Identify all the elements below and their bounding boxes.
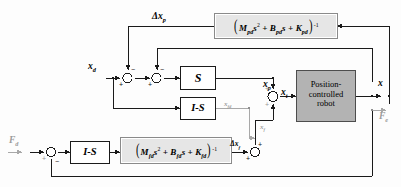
- xd-sub: d: [93, 66, 96, 73]
- plus-f2: +: [188, 147, 193, 157]
- close-paren: ): [309, 17, 313, 34]
- selection-matrix-i-minus-s-block-bottom[interactable]: I-S: [70, 141, 110, 164]
- sign-force-out-junction-left: +: [246, 155, 250, 162]
- selection-matrix-s-block[interactable]: S: [180, 66, 216, 90]
- signal-label-xf: xf: [260, 124, 265, 133]
- sign-position-junction-top: +: [265, 85, 269, 92]
- inverse-exponent: -1: [314, 22, 319, 28]
- signal-label-xfd: xfd: [224, 101, 231, 110]
- sign-junction2-top: −: [160, 66, 164, 73]
- m-symbol-pd: M: [239, 23, 247, 33]
- sign-position-junction-bottom: +: [265, 101, 269, 108]
- signal-label-fd: Fd: [9, 136, 18, 147]
- x-out-base: x: [378, 78, 383, 88]
- sign-junction2-left: +: [148, 81, 152, 88]
- plus-f1: +: [163, 147, 168, 157]
- signal-label-xd: xd: [88, 62, 96, 73]
- force-admittance-expression: (Mfds2 + Bfds + Kfd)-1: [135, 141, 217, 160]
- s-var-f2: s: [182, 147, 186, 157]
- selection-matrix-i-minus-s-block-top[interactable]: I-S: [180, 97, 216, 120]
- plus-2: +: [288, 23, 293, 33]
- fe-sub: e: [385, 116, 388, 123]
- delta-xf-sub: f: [238, 145, 240, 150]
- s-var-2: s: [282, 23, 286, 33]
- xf-sub: f: [264, 127, 266, 132]
- sign-junction1-top: −: [131, 66, 135, 73]
- xt-sub: t: [286, 92, 288, 99]
- sign-force-out-junction-top: +: [258, 141, 262, 148]
- signal-label-delta-xp: Δxp: [152, 12, 166, 23]
- block-diagram-canvas: (Mpds2 + Bpds + Kpd)-1 S I-S Position- c…: [0, 0, 401, 187]
- position-admittance-expression: (Mpds2 + Bpds + Kpd)-1: [233, 17, 318, 36]
- sign-force-in-junction-left: +: [42, 155, 46, 162]
- selection-is-top-label: I-S: [191, 103, 204, 114]
- force-admittance-block[interactable]: (Mfds2 + Bfds + Kfd)-1: [120, 137, 232, 164]
- k-subscript-pd: pd: [302, 28, 308, 34]
- s-power-f: 2: [157, 146, 160, 152]
- signal-label-xt: xt: [281, 88, 288, 99]
- m-symbol-fd: M: [141, 147, 149, 157]
- selection-is-bottom-label: I-S: [83, 147, 96, 158]
- plus-1: +: [262, 23, 267, 33]
- signal-label-delta-xf: Δxf: [230, 140, 240, 150]
- robot-line-3: robot: [317, 98, 335, 108]
- sign-force-in-junction-bottom: −: [55, 158, 59, 165]
- delta-xp-sub: p: [163, 16, 166, 23]
- signal-label-fe: Fe: [379, 112, 388, 123]
- xfd-sub: fd: [228, 104, 232, 109]
- position-controlled-robot-block[interactable]: Position- controlled robot: [296, 70, 356, 122]
- open-paren-f: (: [136, 141, 140, 158]
- signal-label-x-output: x: [378, 79, 383, 89]
- inverse-exponent-f: -1: [212, 146, 217, 152]
- delta-xp-base: Δx: [152, 11, 163, 21]
- open-paren: (: [234, 17, 238, 34]
- k-subscript-fd: fd: [201, 153, 206, 159]
- close-paren-f: ): [208, 141, 212, 158]
- position-admittance-block[interactable]: (Mpds2 + Bpds + Kpd)-1: [214, 13, 338, 39]
- selection-s-label: S: [195, 72, 202, 84]
- s-power: 2: [257, 22, 260, 28]
- robot-line-2: controlled: [309, 89, 343, 99]
- sign-junction1-left: +: [119, 81, 123, 88]
- fd-sub: d: [15, 140, 18, 147]
- robot-line-1: Position-: [311, 79, 342, 89]
